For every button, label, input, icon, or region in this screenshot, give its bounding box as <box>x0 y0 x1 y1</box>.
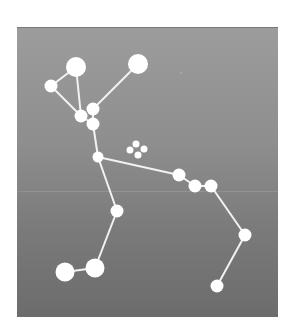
star-H <box>173 169 186 182</box>
star-A <box>66 57 86 77</box>
constellation-figure <box>0 0 289 326</box>
cluster-star-2 <box>127 147 134 154</box>
constellation-lines <box>51 64 245 286</box>
star-O <box>211 280 224 293</box>
star-G <box>93 152 104 163</box>
star-E <box>75 110 88 123</box>
cluster-star-1 <box>141 146 148 153</box>
constellation-stars <box>45 54 252 293</box>
star-cluster <box>127 141 148 159</box>
constellation-line-J-K <box>211 186 245 235</box>
star-B <box>45 80 58 93</box>
star-I <box>189 180 202 193</box>
constellation-line-G-L <box>98 157 117 211</box>
star-D <box>87 103 100 116</box>
cluster-star-0 <box>133 141 140 148</box>
star-J <box>205 180 218 193</box>
star-C <box>128 54 148 74</box>
star-L <box>111 205 124 218</box>
constellation-line-G-H <box>98 157 179 175</box>
star-K <box>239 229 252 242</box>
star-M <box>86 259 105 278</box>
star-F <box>87 118 100 131</box>
cluster-star-3 <box>135 152 142 159</box>
faint-star-speck <box>180 72 182 74</box>
star-N <box>56 263 75 282</box>
constellation-line-K-O <box>217 235 245 286</box>
